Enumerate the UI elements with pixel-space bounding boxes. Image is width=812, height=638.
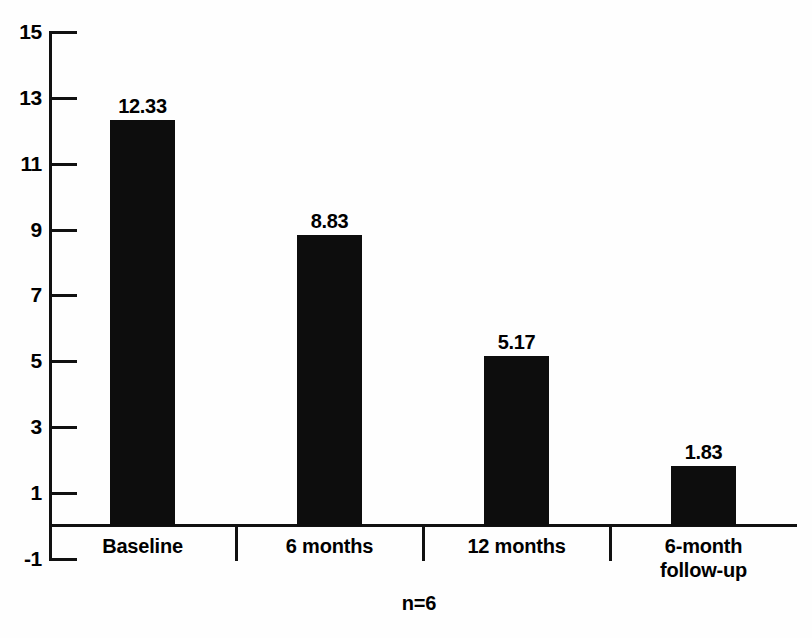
y-tick-label: 5: [2, 350, 42, 371]
bar: [671, 466, 736, 526]
y-tick-mark: [49, 492, 77, 495]
bar-value-label: 8.83: [280, 211, 380, 231]
bar-value-label: 12.33: [93, 96, 193, 116]
bar: [110, 120, 175, 526]
y-tick-label: 15: [2, 21, 42, 42]
y-tick-mark: [49, 360, 77, 363]
y-tick-label-wrap: 7: [0, 284, 42, 306]
category-separator-tick: [235, 527, 238, 561]
y-tick-label: 9: [2, 219, 42, 240]
category-label: 6-month follow-up: [614, 534, 794, 582]
y-tick-label: 11: [2, 153, 42, 174]
y-tick-mark: [49, 97, 77, 100]
y-tick-label-wrap: -1: [0, 548, 42, 570]
y-tick-label: -1: [2, 548, 42, 569]
y-tick-mark: [49, 426, 77, 429]
y-tick-label-wrap: 3: [0, 416, 42, 438]
bar-value-label: 5.17: [467, 332, 567, 352]
bar-value-label: 1.83: [654, 442, 754, 462]
y-tick-mark: [49, 558, 77, 561]
y-tick-mark: [49, 163, 77, 166]
y-tick-mark: [49, 294, 77, 297]
category-label: Baseline: [53, 534, 233, 558]
bar: [297, 235, 362, 526]
y-tick-label: 13: [2, 87, 42, 108]
y-tick-label: 1: [2, 482, 42, 503]
y-tick-label: 7: [2, 284, 42, 305]
y-tick-label-wrap: 13: [0, 87, 42, 109]
category-label: 6 months: [240, 534, 420, 558]
y-tick-label-wrap: 9: [0, 219, 42, 241]
y-tick-label-wrap: 15: [0, 21, 42, 43]
y-tick-label: 3: [2, 416, 42, 437]
bar-chart: 15131197531-1 12.338.835.171.83 Baseline…: [0, 0, 812, 638]
category-separator-tick: [422, 527, 425, 561]
bar: [484, 356, 549, 526]
category-label: 12 months: [427, 534, 607, 558]
category-separator-tick: [609, 527, 612, 561]
y-tick-label-wrap: 1: [0, 482, 42, 504]
y-tick-label-wrap: 11: [0, 153, 42, 175]
y-tick-mark: [49, 229, 77, 232]
sample-size-annotation: n=6: [0, 592, 812, 615]
y-tick-mark: [49, 31, 77, 34]
y-tick-label-wrap: 5: [0, 350, 42, 372]
